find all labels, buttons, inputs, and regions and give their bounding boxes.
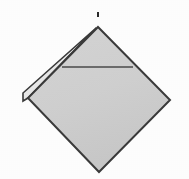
apex-tick-mark — [97, 12, 99, 17]
figure-root — [0, 0, 189, 179]
diamond-figure-svg — [0, 0, 189, 179]
